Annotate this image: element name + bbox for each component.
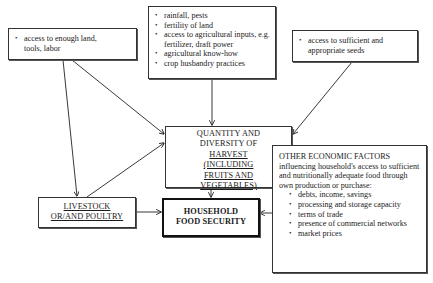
food-security-line-2: FOOD SECURITY [164,217,258,227]
list-item: agricultural know-how [155,49,271,59]
arrow-livestock-to-harvest [87,143,164,197]
list-item: fertility of land [155,21,271,31]
food-security-box: HOUSEHOLD FOOD SECURITY [162,198,260,237]
food-security-line-1: HOUSEHOLD [164,207,258,217]
list-item: rainfall, pests [155,11,271,21]
list-item: debts, income, savings [289,190,422,200]
economic-factors-box: OTHER ECONOMIC FACTORS influencing house… [272,145,427,273]
arrow-resources-to-livestock [63,60,77,196]
livestock-line-2: OR/AND POULTRY [39,212,135,222]
economic-factors-list: debts, income, savings processing and st… [279,190,422,238]
list-item: presence of commercial networks [289,219,422,229]
list-item: access to enough land, tools, labor [15,34,130,53]
resources-list: access to enough land, tools, labor [15,34,130,53]
production-conditions-list: rainfall, pests fertility of land access… [155,11,271,69]
harvest-line-1: QUANTITY AND [166,129,291,139]
list-item: access to agricultural inputs, e.g. fert… [155,30,271,49]
list-item: market prices [289,229,422,239]
list-item: crop husbandry practices [155,59,271,69]
livestock-line-1: LIVESTOCK [39,202,135,212]
resources-box: access to enough land, tools, labor [8,28,137,60]
seeds-list: access to sufficient and appropriate see… [299,36,411,55]
list-item: access to sufficient and appropriate see… [299,36,411,55]
economic-factors-description: influencing household's access to suffic… [279,162,422,191]
livestock-box: LIVESTOCK OR/AND POULTRY [38,197,136,228]
list-item: terms of trade [289,210,422,220]
production-conditions-box: rainfall, pests fertility of land access… [148,6,276,79]
arrow-seeds-to-harvest [293,62,352,134]
list-item: processing and storage capacity [289,200,422,210]
seeds-box: access to sufficient and appropriate see… [292,30,418,62]
economic-factors-title: OTHER ECONOMIC FACTORS [279,152,422,162]
